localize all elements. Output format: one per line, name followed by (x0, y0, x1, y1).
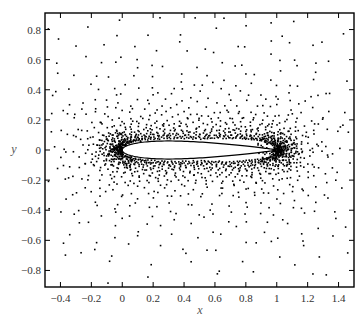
y-tick-label: 0 (36, 144, 42, 156)
x-axis-label: x (196, 303, 203, 317)
x-tick-label: 1.2 (301, 292, 315, 304)
y-tick-label: 0.6 (27, 54, 41, 66)
y-tick-label: 0.4 (27, 84, 41, 96)
x-tick-label: 0.6 (208, 292, 222, 304)
y-tick-label: −0.8 (21, 264, 41, 276)
y-tick-label: 0.2 (27, 114, 41, 126)
y-axis-label: y (10, 142, 17, 156)
x-tick-label: 1 (274, 292, 280, 304)
y-tick-label: 0.8 (27, 24, 41, 36)
x-tick-label: 0 (120, 292, 126, 304)
y-tick-label: −0.2 (21, 174, 41, 186)
y-tick-label: −0.6 (21, 234, 41, 246)
y-tick-label: −0.4 (21, 204, 41, 216)
x-tick-label: 0.2 (146, 292, 160, 304)
x-tick-label: 0.4 (177, 292, 191, 304)
x-tick-label: −0.2 (81, 292, 101, 304)
x-tick-label: −0.4 (50, 292, 70, 304)
x-tick-label: 1.4 (332, 292, 346, 304)
x-tick-label: 0.8 (239, 292, 253, 304)
airfoil-mesh-scatter-chart: −0.4−0.200.20.40.60.811.21.4 0.80.60.40.… (0, 0, 364, 326)
airfoil-shape (122, 141, 277, 159)
